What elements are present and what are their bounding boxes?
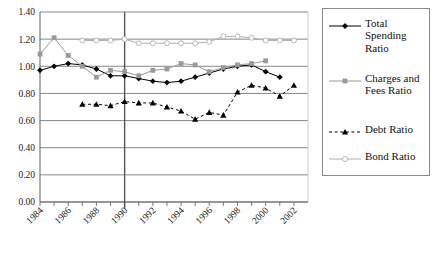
data-point-marker [192, 116, 198, 122]
x-axis-tick-label: 1990 [109, 205, 130, 226]
legend-item-bond-ratio[interactable]: Bond Ratio [328, 150, 415, 163]
series-line [82, 85, 294, 119]
data-point-marker [136, 73, 141, 78]
data-point-marker [108, 68, 113, 73]
y-axis-tick-label: 0.80 [18, 89, 35, 99]
data-point-marker [342, 23, 348, 29]
data-point-marker [263, 38, 268, 43]
data-point-marker [94, 75, 99, 80]
legend-item-label: Charges and Fees Ratio [365, 72, 419, 97]
legend-item-total-spending-ratio[interactable]: Total Spending Ratio [328, 17, 407, 54]
data-point-marker [277, 93, 283, 99]
data-point-marker [277, 38, 282, 43]
data-point-marker [150, 78, 156, 84]
data-point-marker [235, 34, 240, 39]
data-point-marker [178, 78, 184, 84]
data-point-marker [164, 104, 170, 110]
data-point-marker [221, 65, 226, 70]
data-point-marker [136, 41, 141, 46]
chart-plot-area: 0.000.200.400.600.801.001.201.4019841986… [0, 0, 316, 256]
data-point-marker [192, 74, 198, 80]
x-axis-tick-label: 1998 [222, 205, 243, 226]
y-axis-tick-label: 0.20 [18, 170, 35, 180]
data-point-marker [122, 69, 127, 74]
data-point-marker [108, 73, 114, 79]
data-point-marker [207, 39, 212, 44]
legend-key-bond-ratio-icon [328, 151, 362, 163]
legend-item-debt-ratio[interactable]: Debt Ratio [328, 123, 413, 136]
chart-screenshot: 0.000.200.400.600.801.001.201.4019841986… [0, 0, 436, 256]
data-point-marker [291, 82, 297, 88]
data-point-marker [66, 53, 71, 58]
data-point-marker [207, 69, 212, 74]
data-point-marker [136, 100, 142, 106]
data-point-marker [51, 63, 57, 69]
line-chart: 0.000.200.400.600.801.001.201.4019841986… [0, 0, 316, 256]
x-axis-tick-label: 1984 [24, 205, 45, 226]
data-point-marker [164, 80, 170, 86]
y-axis-tick-label: 1.00 [18, 62, 35, 72]
legend-item-label: Total Spending Ratio [365, 17, 407, 54]
data-point-marker [108, 38, 113, 43]
data-point-marker [178, 108, 184, 114]
legend-key-total-spending-ratio-icon [328, 18, 362, 30]
data-point-marker [235, 63, 240, 68]
data-point-marker [234, 89, 240, 95]
legend-key-charges-and-fees-ratio-icon [328, 73, 362, 85]
legend-item-label: Debt Ratio [365, 123, 413, 135]
x-axis-tick-label: 2000 [250, 205, 271, 226]
data-point-marker [179, 61, 184, 66]
y-axis-tick-label: 1.20 [18, 35, 35, 45]
data-point-marker [263, 58, 268, 63]
x-axis-tick-label: 1994 [165, 205, 186, 226]
y-axis-tick-label: 0.00 [18, 197, 35, 207]
data-point-marker [150, 68, 155, 73]
x-axis-tick-label: 1986 [53, 205, 74, 226]
data-point-marker [249, 61, 254, 66]
series-line [82, 36, 294, 43]
data-point-marker [248, 82, 254, 88]
data-point-marker [94, 38, 99, 43]
data-point-marker [193, 41, 198, 46]
data-point-marker [80, 64, 85, 69]
data-point-marker [94, 66, 100, 72]
data-point-marker [291, 38, 296, 43]
data-point-marker [165, 67, 170, 72]
data-point-marker [206, 109, 212, 115]
data-point-marker [164, 41, 169, 46]
legend-item-charges-and-fees-ratio[interactable]: Charges and Fees Ratio [328, 72, 419, 97]
data-point-marker [193, 63, 198, 68]
data-point-marker [343, 157, 348, 162]
series-bond-ratio [80, 34, 297, 46]
data-point-marker [122, 37, 127, 42]
data-point-marker [37, 67, 43, 73]
data-point-marker [221, 34, 226, 39]
x-axis-tick-label: 1996 [194, 205, 215, 226]
legend-key-debt-ratio-icon [328, 124, 362, 136]
x-axis-tick-label: 1988 [81, 205, 102, 226]
y-axis-tick-label: 1.40 [18, 7, 35, 17]
data-point-marker [179, 41, 184, 46]
data-point-marker [277, 74, 283, 80]
data-point-marker [249, 35, 254, 40]
legend-item-label: Bond Ratio [365, 150, 415, 162]
data-point-marker [65, 61, 71, 67]
x-axis-tick-label: 2002 [278, 205, 299, 226]
data-point-marker [220, 112, 226, 118]
chart-legend: Total Spending RatioCharges and Fees Rat… [322, 8, 430, 176]
y-axis-tick-label: 0.40 [18, 143, 35, 153]
data-point-marker [38, 52, 43, 57]
series-debt-ratio [79, 82, 297, 122]
data-point-marker [52, 35, 57, 40]
data-point-marker [343, 79, 348, 84]
x-axis-tick-label: 1992 [137, 205, 158, 226]
data-point-marker [80, 38, 85, 43]
y-axis-tick-label: 0.60 [18, 116, 35, 126]
data-point-marker [150, 41, 155, 46]
data-point-marker [263, 69, 269, 75]
